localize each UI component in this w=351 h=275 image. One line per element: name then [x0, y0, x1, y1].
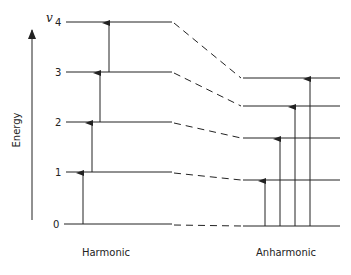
anharmonic-levels [243, 78, 340, 226]
level-label-0: 0 [53, 219, 59, 230]
correlation-line-3 [174, 73, 241, 106]
level-label-4: 4 [55, 17, 61, 28]
level-label-2: 2 [55, 117, 61, 128]
level-label-1: 1 [55, 167, 61, 178]
harmonic-transitions [83, 23, 109, 224]
correlation-line-0 [174, 225, 241, 226]
harmonic-label: Harmonic [82, 247, 130, 258]
correlation-line-2 [174, 123, 241, 138]
harmonic-levels [64, 22, 172, 224]
correlation-lines [174, 23, 241, 226]
anharmonic-label: Anharmonic [256, 247, 316, 258]
energy-level-diagram: Energy v 4 3 2 1 0 [0, 0, 351, 275]
level-label-3: 3 [55, 67, 61, 78]
energy-axis-label: Energy [11, 112, 22, 147]
correlation-line-4 [174, 23, 241, 78]
anharmonic-transitions [265, 79, 310, 226]
correlation-line-1 [174, 173, 241, 180]
quantum-number-symbol: v [46, 11, 53, 25]
